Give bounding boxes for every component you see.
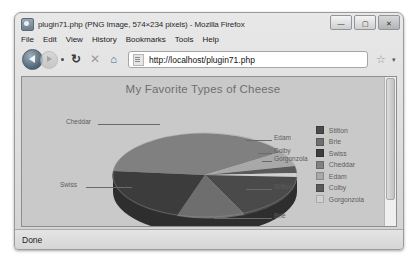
leader-line-stilton xyxy=(246,189,272,190)
title-bar: plugin71.php (PNG Image, 574×234 pixels)… xyxy=(15,13,403,32)
reload-icon[interactable]: ↻ xyxy=(68,52,83,67)
browser-window: plugin71.php (PNG Image, 574×234 pixels)… xyxy=(14,12,404,250)
legend-label-brie: Brie xyxy=(329,138,341,145)
menu-item-help[interactable]: Help xyxy=(202,35,218,44)
callout-colby: Colby xyxy=(274,147,291,154)
legend-item-edam: Edam xyxy=(316,171,364,181)
legend-item-stilton: Stilton xyxy=(316,125,364,135)
minimize-button[interactable]: — xyxy=(330,15,352,30)
close-button[interactable]: ✕ xyxy=(378,15,400,30)
close-icon: ✕ xyxy=(386,19,392,26)
legend-item-colby: Colby xyxy=(316,183,364,193)
legend-label-edam: Edam xyxy=(329,173,347,180)
chart-legend: Stilton Brie Swiss Cheddar Edam xyxy=(316,125,364,206)
chart-title: My Favorite Types of Cheese xyxy=(22,83,384,95)
scrollbar-thumb[interactable] xyxy=(386,78,395,200)
callout-brie: Brie xyxy=(274,212,286,219)
callout-gorgonzola: Gorgonzola xyxy=(274,155,308,162)
legend-label-gorgonzola: Gorgonzola xyxy=(329,196,364,203)
window-title: plugin71.php (PNG Image, 574×234 pixels)… xyxy=(38,20,245,29)
forward-arrow-icon xyxy=(40,51,58,69)
legend-item-cheddar: Cheddar xyxy=(316,160,364,170)
legend-item-brie: Brie xyxy=(316,137,364,147)
chevron-down-icon[interactable]: ▾ xyxy=(392,56,396,64)
legend-item-swiss: Swiss xyxy=(316,148,364,158)
menu-item-edit[interactable]: Edit xyxy=(43,35,57,44)
callout-swiss: Swiss xyxy=(60,181,77,188)
firefox-icon xyxy=(21,18,34,31)
url-text: http://localhost/plugin71.php xyxy=(149,55,255,65)
legend-swatch-swiss xyxy=(316,149,324,157)
legend-label-colby: Colby xyxy=(329,184,346,191)
window-controls: — ▢ ✕ xyxy=(330,15,400,30)
leader-line-cheddar xyxy=(98,124,160,125)
menu-item-history[interactable]: History xyxy=(92,35,117,44)
content-viewport: My Favorite Types of Cheese xyxy=(21,76,397,227)
leader-line-edam xyxy=(246,140,272,141)
pie-chart-image: My Favorite Types of Cheese xyxy=(22,77,384,226)
leader-line-brie xyxy=(214,218,272,219)
legend-label-stilton: Stilton xyxy=(329,127,348,134)
menu-bar: File Edit View History Bookmarks Tools H… xyxy=(15,32,403,47)
legend-swatch-colby xyxy=(316,184,324,192)
legend-item-gorgonzola: Gorgonzola xyxy=(316,194,364,204)
legend-swatch-gorgonzola xyxy=(316,195,324,203)
legend-swatch-cheddar xyxy=(316,161,324,169)
callout-edam: Edam xyxy=(274,134,291,141)
back-forward-group xyxy=(22,49,64,70)
leader-line-swiss xyxy=(86,187,132,188)
legend-label-swiss: Swiss xyxy=(329,150,347,157)
address-bar[interactable]: http://localhost/plugin71.php xyxy=(128,51,368,68)
stop-icon: ✕ xyxy=(87,52,102,67)
history-dropdown-icon[interactable] xyxy=(61,58,64,61)
menu-item-view[interactable]: View xyxy=(66,35,83,44)
leader-line-colby xyxy=(258,153,272,154)
maximize-button[interactable]: ▢ xyxy=(354,15,376,30)
leader-line-gorgonzola xyxy=(262,161,272,162)
menu-item-file[interactable]: File xyxy=(21,35,34,44)
callout-stilton: Stilton xyxy=(274,183,292,190)
legend-label-cheddar: Cheddar xyxy=(329,161,355,168)
menu-item-bookmarks[interactable]: Bookmarks xyxy=(126,35,166,44)
status-bar: Done xyxy=(15,229,403,249)
bookmark-star-icon[interactable]: ☆ xyxy=(376,53,386,66)
navigation-toolbar: ↻ ✕ ⌂ http://localhost/plugin71.php ☆ ▾ xyxy=(15,47,403,72)
vertical-scrollbar[interactable] xyxy=(384,77,396,226)
legend-swatch-stilton xyxy=(316,126,324,134)
menu-item-tools[interactable]: Tools xyxy=(175,35,194,44)
legend-swatch-edam xyxy=(316,172,324,180)
page-favicon-icon xyxy=(133,54,144,66)
legend-swatch-brie xyxy=(316,138,324,146)
callout-cheddar: Cheddar xyxy=(66,118,91,125)
maximize-icon: ▢ xyxy=(362,19,369,26)
status-text: Done xyxy=(22,235,42,245)
home-icon[interactable]: ⌂ xyxy=(106,52,121,67)
minimize-icon: — xyxy=(338,19,345,26)
